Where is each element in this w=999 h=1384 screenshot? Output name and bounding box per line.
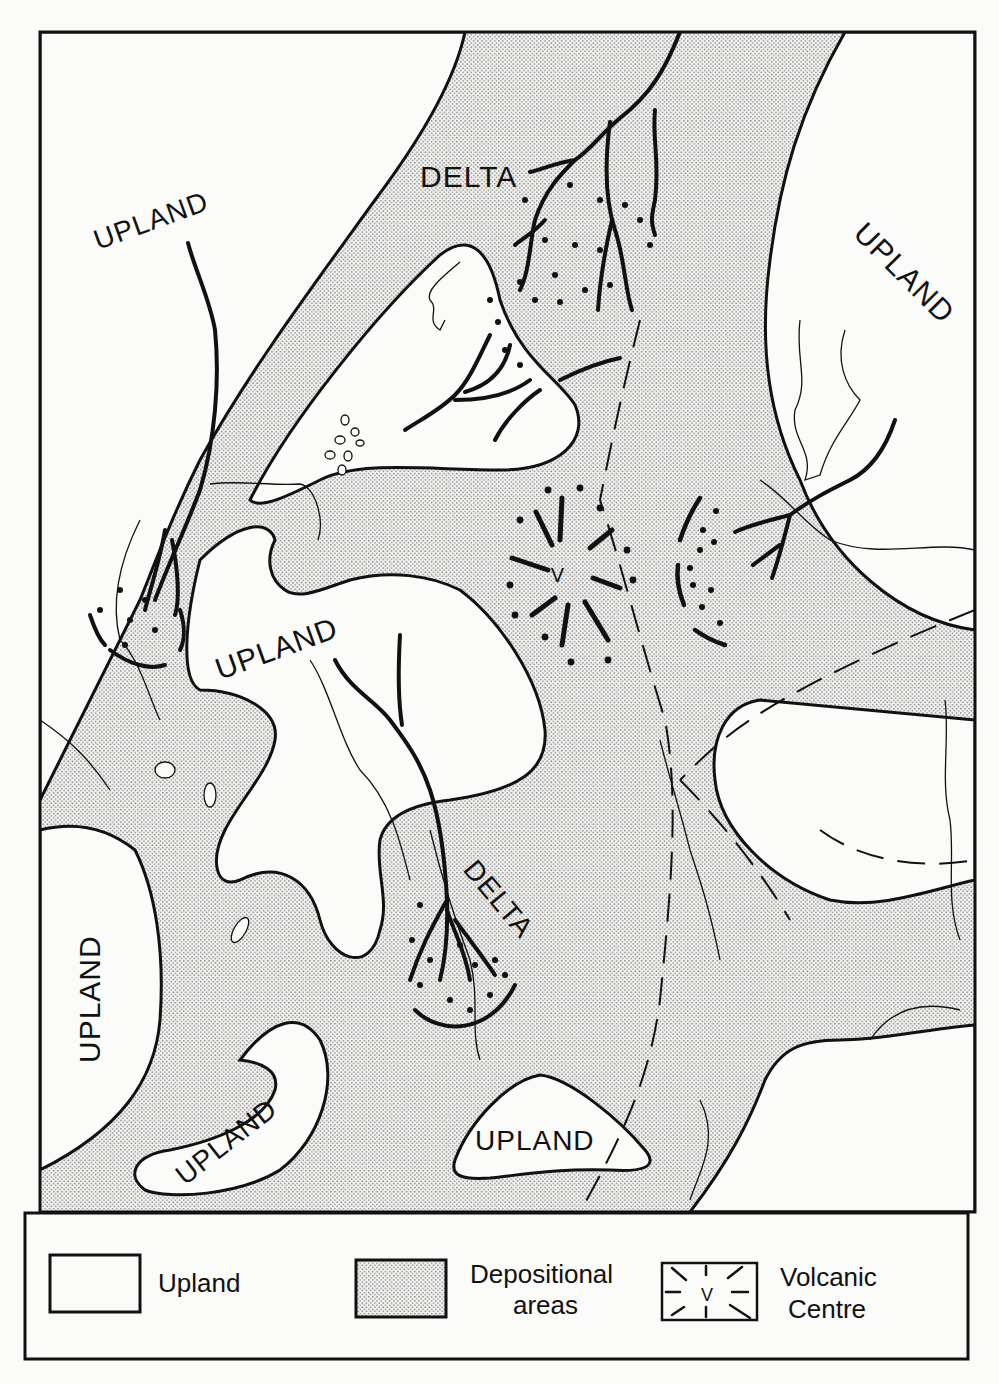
legend: Upland Depositional areas V Volcanic Cen… [25, 1213, 968, 1359]
legend-depositional-label-line1: Depositional [470, 1259, 613, 1289]
legend-volcanic-label-line1: Volcanic [780, 1262, 877, 1292]
label-upland-south: UPLAND [475, 1125, 595, 1156]
legend-depositional-swatch [356, 1260, 446, 1317]
legend-volcanic-v: V [701, 1285, 713, 1305]
volcanic-centre-v-label: V [551, 564, 565, 586]
label-delta-north: DELTA [420, 160, 517, 193]
label-upland-west: UPLAND [73, 935, 106, 1063]
legend-volcanic-label-line2: Centre [788, 1294, 866, 1324]
legend-upland-swatch [50, 1255, 140, 1312]
legend-depositional-label-line2: areas [513, 1290, 578, 1320]
paleogeographic-map-figure: V [0, 0, 999, 1384]
legend-upland-label: Upland [158, 1268, 240, 1298]
